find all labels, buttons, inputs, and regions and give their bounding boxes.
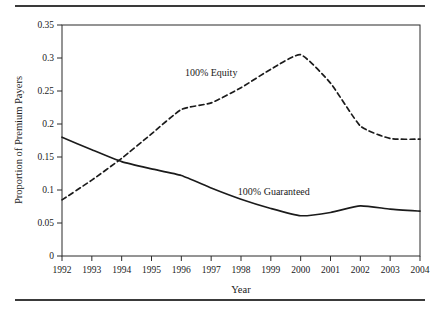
y-axis-tick-label: 0.15	[37, 152, 54, 162]
y-axis-title: Proportion of Premium Payers	[13, 76, 24, 204]
y-axis-tick-label: 0.05	[37, 218, 54, 228]
y-axis-tick-label: 0.3	[42, 53, 54, 63]
x-axis-tick-label: 1998	[232, 265, 251, 275]
x-axis-tick-label: 1995	[142, 265, 161, 275]
x-axis-tick-label: 1993	[82, 265, 101, 275]
figure-container: 00.050.10.150.20.250.30.35 1992199319941…	[0, 0, 436, 314]
x-axis-tick-label: 1992	[53, 265, 72, 275]
y-axis-tick-label: 0.35	[37, 20, 54, 30]
x-axis-tick-label: 2000	[291, 265, 310, 275]
x-axis-tick-label: 1997	[202, 265, 221, 275]
x-axis-title: Year	[231, 284, 251, 295]
y-axis-tick-label: 0.1	[42, 185, 54, 195]
series-annotation-guaranteed: 100% Guaranteed	[238, 186, 310, 197]
x-axis-tick-label: 1999	[261, 265, 280, 275]
x-axis-tick-label: 1996	[172, 265, 191, 275]
series-line-100-percent-guaranteed	[62, 137, 420, 216]
x-axis-tick-label: 1994	[112, 265, 131, 275]
line-chart: 00.050.10.150.20.250.30.35 1992199319941…	[0, 10, 436, 295]
x-axis-tick-label: 2002	[351, 265, 370, 275]
y-axis-tick-label: 0.2	[42, 119, 54, 129]
y-axis: 00.050.10.150.20.250.30.35	[37, 20, 62, 261]
series-annotation-equity: 100% Equity	[185, 67, 238, 78]
x-axis: 1992199319941995199619971998199920002001…	[53, 256, 430, 275]
x-axis-tick-label: 2004	[411, 265, 430, 275]
plot-frame	[62, 25, 420, 256]
bottom-horizontal-rule	[15, 299, 425, 301]
y-axis-tick-label: 0.25	[37, 86, 54, 96]
top-horizontal-rule	[15, 5, 425, 7]
y-axis-tick-label: 0	[49, 251, 54, 261]
x-axis-tick-label: 2001	[321, 265, 340, 275]
x-axis-tick-label: 2003	[381, 265, 400, 275]
plot-wrapper: 00.050.10.150.20.250.30.35 1992199319941…	[0, 10, 436, 295]
series-line-100-percent-equity	[62, 55, 420, 200]
